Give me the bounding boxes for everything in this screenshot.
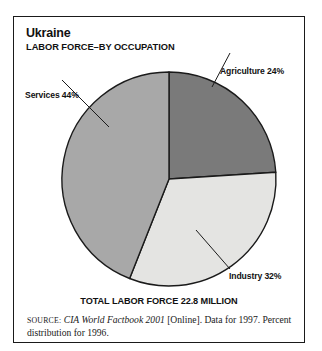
pie-slice-agriculture: [169, 72, 276, 179]
source-work-title: CIA World Factbook 2001: [64, 314, 165, 325]
pie-chart-svg: [14, 17, 306, 344]
slice-label-services: Services 44%: [25, 90, 79, 100]
slice-label-industry: Industry 32%: [229, 271, 281, 281]
chart-subtitle: LABOR FORCE–BY OCCUPATION: [26, 42, 175, 53]
leader-line-agriculture: [212, 53, 230, 87]
chart-header: Ukraine LABOR FORCE–BY OCCUPATION: [26, 27, 175, 53]
total-labor-force-caption: TOTAL LABOR FORCE 22.8 MILLION: [14, 296, 304, 306]
figure-frame: Ukraine LABOR FORCE–BY OCCUPATION Agricu…: [13, 16, 305, 343]
page-title: Ukraine: [26, 27, 175, 40]
pie-slice-industry: [130, 172, 276, 286]
source-note: SOURCE: CIA World Factbook 2001 [Online]…: [27, 314, 297, 340]
pie-chart: Agriculture 24% Services 44% Industry 32…: [14, 17, 306, 344]
leader-line-industry: [196, 230, 230, 269]
leader-line-services: [62, 80, 109, 127]
pie-slice-services: [62, 72, 169, 278]
slice-label-agriculture: Agriculture 24%: [220, 66, 284, 76]
source-label: SOURCE:: [27, 316, 61, 325]
